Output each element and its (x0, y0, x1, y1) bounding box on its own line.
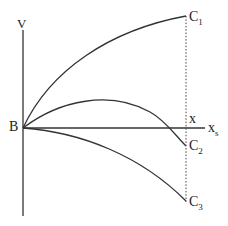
label-c3-main: C (189, 194, 198, 209)
label-x-marker: x (189, 112, 196, 126)
diagram-canvas: V B x xs C1 C2 C3 (0, 0, 228, 226)
label-c1-sub: 1 (198, 17, 203, 27)
curve-c2 (23, 100, 186, 146)
label-c2-sub: 2 (198, 146, 203, 156)
label-c2: C2 (189, 139, 203, 153)
label-b: B (9, 120, 18, 134)
label-c3: C3 (189, 195, 203, 209)
label-xs-sub: s (215, 128, 219, 138)
curve-c1 (23, 16, 186, 128)
label-c1: C1 (189, 10, 203, 24)
label-v: V (17, 17, 26, 30)
label-c2-main: C (189, 138, 198, 153)
label-c1-main: C (189, 9, 198, 24)
label-c3-sub: 3 (198, 202, 203, 212)
label-xs-main: x (208, 120, 215, 135)
label-xs: xs (208, 121, 219, 135)
curve-c3 (23, 128, 186, 201)
